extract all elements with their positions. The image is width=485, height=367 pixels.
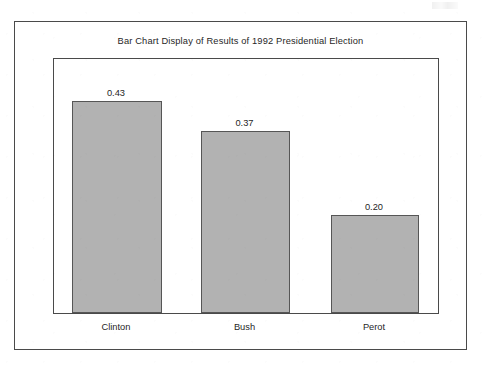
category-label-bush: Bush	[200, 322, 289, 332]
chart-title: Bar Chart Display of Results of 1992 Pre…	[15, 36, 466, 46]
category-label-clinton: Clinton	[71, 322, 161, 332]
category-label-perot: Perot	[330, 322, 418, 332]
bar-value-bush: 0.37	[200, 118, 289, 128]
scan-artifact	[432, 2, 458, 9]
bar-value-perot: 0.20	[330, 202, 418, 212]
bar-perot	[331, 215, 419, 313]
figure-frame: Bar Chart Display of Results of 1992 Pre…	[14, 21, 467, 350]
bar-bush	[201, 131, 290, 313]
bar-value-clinton: 0.43	[71, 88, 161, 98]
bar-clinton	[72, 101, 162, 313]
